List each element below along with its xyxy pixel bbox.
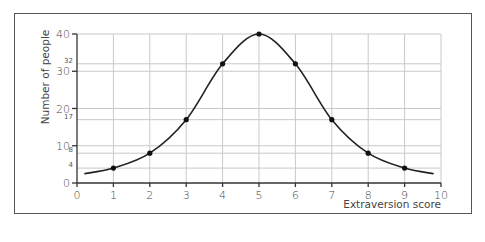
y-axis-title: Number of people <box>39 30 51 125</box>
x-tick-label: 3 <box>183 189 190 202</box>
data-point-marker <box>220 61 225 66</box>
x-tick-label: 7 <box>328 189 335 202</box>
y-value-label: 32 <box>64 57 73 65</box>
x-tick-label: 0 <box>74 189 81 202</box>
y-value-label: 17 <box>64 113 73 121</box>
data-point-marker <box>147 151 152 156</box>
y-tick-label: 40 <box>56 28 70 41</box>
x-tick-label: 5 <box>256 189 263 202</box>
data-point-marker <box>111 166 116 171</box>
x-tick-label: 6 <box>292 189 299 202</box>
data-point-marker <box>256 31 261 36</box>
data-point-marker <box>293 61 298 66</box>
data-point-marker <box>366 151 371 156</box>
gridlines <box>77 34 441 183</box>
x-tick-label: 4 <box>219 189 226 202</box>
x-axis-title: Extraversion score <box>343 198 441 210</box>
data-point-marker <box>184 117 189 122</box>
y-tick-label: 30 <box>56 65 70 78</box>
data-point-marker <box>402 166 407 171</box>
x-tick-label: 1 <box>110 189 117 202</box>
data-point-marker <box>329 117 334 122</box>
y-tick-label: 0 <box>63 177 70 190</box>
tick-labels: 012345678910010203040481732 <box>56 28 448 202</box>
y-value-label: 8 <box>69 146 73 154</box>
bell-curve-chart: 012345678910010203040481732 Extraversion… <box>0 0 485 242</box>
x-tick-label: 2 <box>146 189 153 202</box>
y-value-label: 4 <box>69 161 74 169</box>
